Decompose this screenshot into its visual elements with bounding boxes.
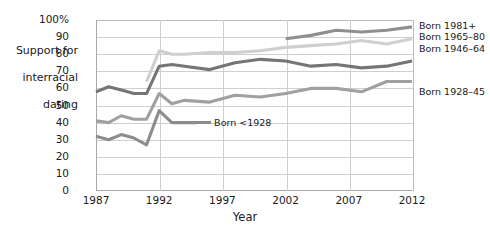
- y-tick-label: 100%: [39, 13, 69, 25]
- gridline-x-2012: [413, 20, 414, 191]
- legend-label-born-1946-64: Born 1946–64: [419, 43, 485, 54]
- legend-label-born-1965-80: Born 1965–80: [419, 31, 485, 42]
- y-tick-label: 20: [56, 150, 69, 162]
- x-tick-2002: 2002: [272, 194, 299, 206]
- x-tick-2012: 2012: [399, 194, 426, 206]
- x-tick-2007: 2007: [335, 194, 362, 206]
- x-tick-1992: 1992: [146, 194, 173, 206]
- inline-label-leader: [197, 121, 211, 124]
- y-tick-label: 70: [56, 64, 69, 76]
- series-line-born-1946-64: [96, 59, 412, 93]
- series-line-born-1981: [286, 27, 412, 39]
- y-tick-label: 50: [56, 99, 69, 111]
- line-chart: Support for interracial dating 100%90807…: [0, 0, 490, 232]
- x-tick-1987: 1987: [83, 194, 110, 206]
- legend-label-born-1981: Born 1981+: [419, 20, 476, 31]
- y-tick-label: 80: [56, 47, 69, 59]
- y-tick-label: 60: [56, 81, 69, 93]
- y-tick-label: 40: [56, 116, 69, 128]
- y-tick-label: 0: [62, 184, 69, 196]
- series-layer: [96, 20, 412, 191]
- y-tick-label: 10: [56, 167, 69, 179]
- legend-label-born-1928-45: Born 1928–45: [419, 86, 485, 97]
- y-tick-label: 30: [56, 133, 69, 145]
- x-tick-1997: 1997: [209, 194, 236, 206]
- y-tick-label: 90: [56, 30, 69, 42]
- x-axis-title: Year: [0, 210, 490, 224]
- inline-label-born-pre-1928: Born <1928: [214, 117, 271, 128]
